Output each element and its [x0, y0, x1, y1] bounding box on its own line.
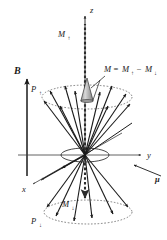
equation-minus-sign: − [136, 64, 142, 74]
figure-container: B z y x μ M ↑ M ↓ P ↑ P ↓ M [0, 0, 167, 240]
net-magnetization-arrow-base [81, 100, 93, 103]
equation-term-m-down: M [144, 64, 153, 74]
y-axis-label: y [146, 150, 151, 160]
p-down-label-subscript: ↓ [39, 222, 42, 228]
p-up-label-symbol: P [30, 84, 36, 94]
m-up-label-subscript: ↑ [68, 35, 71, 41]
magnetization-diagram: B z y x μ M ↑ M ↓ P ↑ P ↓ M [0, 0, 167, 240]
p-up-label-subscript: ↑ [39, 90, 42, 96]
equation-term-m-up-subscript: ↑ [131, 70, 134, 76]
field-label-B: B [13, 65, 21, 76]
equation-term-m-up: M [121, 64, 130, 74]
m-down-label-subscript: ↓ [72, 205, 75, 211]
equation-lhs: M [103, 64, 112, 74]
equation-term-m-down-subscript: ↓ [154, 70, 157, 76]
magnetic-moment-label-mu: μ [154, 174, 160, 184]
figure-background [0, 0, 167, 240]
x-axis-label: x [21, 184, 26, 194]
m-down-label-symbol: M [61, 199, 70, 209]
z-axis-label: z [89, 5, 94, 15]
equation-equals-sign: = [113, 64, 119, 74]
p-down-label-symbol: P [30, 216, 36, 226]
m-up-label-symbol: M [57, 29, 66, 39]
